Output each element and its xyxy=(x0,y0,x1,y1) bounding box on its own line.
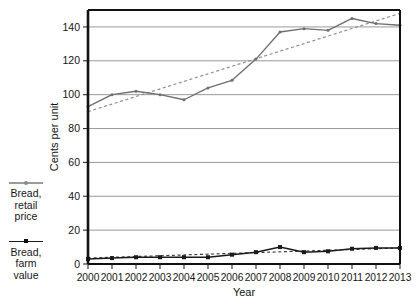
ytick-label-120: 120 xyxy=(62,54,80,66)
xtick-label-2001: 2001 xyxy=(101,272,124,283)
datapoint-farm-value-2002 xyxy=(134,255,138,259)
x-axis-title: Year xyxy=(233,286,256,297)
xtick-label-2003: 2003 xyxy=(149,272,172,283)
datapoint-farm-value-2005 xyxy=(206,255,210,259)
datapoint-farm-value-2010 xyxy=(326,249,330,253)
line-chart: 0204060801001201402000200120022003200420… xyxy=(0,0,417,297)
datapoint-retail-price-2007 xyxy=(255,58,258,61)
legend-item-farm-value: Bread, farm value xyxy=(0,237,52,282)
datapoint-farm-value-2006 xyxy=(230,253,234,257)
ytick-label-80: 80 xyxy=(68,122,80,134)
xtick-label-2007: 2007 xyxy=(245,272,268,283)
legend-swatch-retail-price xyxy=(9,178,43,187)
ytick-label-0: 0 xyxy=(74,258,80,270)
datapoint-retail-price-2002 xyxy=(135,90,138,93)
plot-area xyxy=(88,10,400,264)
ytick-label-20: 20 xyxy=(68,224,80,236)
legend-swatch-farm-value xyxy=(9,237,43,246)
datapoint-retail-price-2009 xyxy=(303,27,306,30)
datapoint-retail-price-2003 xyxy=(159,93,162,96)
chart-legend: Bread, retail price Bread, farm value xyxy=(0,178,52,290)
y-axis-title: Cents per unit xyxy=(48,103,60,171)
ytick-label-100: 100 xyxy=(62,88,80,100)
xtick-label-2004: 2004 xyxy=(173,272,196,283)
legend-label-retail-line1: Bread, xyxy=(0,188,52,200)
datapoint-retail-price-2004 xyxy=(183,98,186,101)
datapoint-farm-value-2011 xyxy=(350,247,354,251)
datapoint-farm-value-2012 xyxy=(374,246,378,250)
xtick-label-2006: 2006 xyxy=(221,272,244,283)
datapoint-farm-value-2009 xyxy=(302,250,306,254)
datapoint-farm-value-2004 xyxy=(182,255,186,259)
xtick-label-2013: 2013 xyxy=(389,272,412,283)
xtick-label-2000: 2000 xyxy=(77,272,100,283)
datapoint-retail-price-2005 xyxy=(207,86,210,89)
datapoint-farm-value-2003 xyxy=(158,255,162,259)
xtick-label-2008: 2008 xyxy=(269,272,292,283)
legend-item-retail-price: Bread, retail price xyxy=(0,178,52,223)
ytick-label-140: 140 xyxy=(62,21,80,33)
ytick-label-40: 40 xyxy=(68,190,80,202)
legend-label-retail-line3: price xyxy=(0,211,52,223)
datapoint-farm-value-2007 xyxy=(254,250,258,254)
xtick-label-2002: 2002 xyxy=(125,272,148,283)
chart-container: 0204060801001201402000200120022003200420… xyxy=(0,0,417,297)
xtick-label-2012: 2012 xyxy=(365,272,388,283)
xtick-label-2010: 2010 xyxy=(317,272,340,283)
legend-label-farm-line3: value xyxy=(0,270,52,282)
datapoint-retail-price-2001 xyxy=(111,93,114,96)
datapoint-retail-price-2012 xyxy=(375,22,378,25)
xtick-label-2009: 2009 xyxy=(293,272,316,283)
datapoint-retail-price-2011 xyxy=(351,17,354,20)
ytick-label-60: 60 xyxy=(68,156,80,168)
datapoint-farm-value-2001 xyxy=(110,256,114,260)
datapoint-retail-price-2006 xyxy=(231,79,234,82)
xtick-label-2005: 2005 xyxy=(197,272,220,283)
datapoint-retail-price-2008 xyxy=(279,31,282,34)
xtick-label-2011: 2011 xyxy=(341,272,363,283)
datapoint-retail-price-2010 xyxy=(327,29,330,32)
datapoint-farm-value-2008 xyxy=(278,245,282,249)
